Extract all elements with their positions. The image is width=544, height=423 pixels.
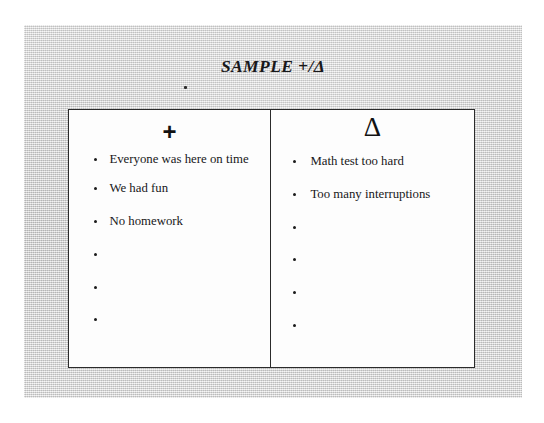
list-item xyxy=(271,220,496,229)
delta-column: Δ Math test too hard Too many interrupti… xyxy=(271,110,474,367)
list-item xyxy=(271,318,496,327)
bullet-icon xyxy=(94,286,97,289)
bullet-icon xyxy=(293,258,296,261)
plus-column: + Everyone was here on time We had fun N… xyxy=(69,110,271,367)
list-item-label: Math test too hard xyxy=(310,154,470,169)
delta-sign-icon: Δ xyxy=(271,114,474,141)
list-item: Everyone was here on time xyxy=(69,152,295,167)
list-item: No homework xyxy=(69,214,295,229)
plus-column-list: Everyone was here on time We had fun No … xyxy=(69,152,270,364)
bullet-icon xyxy=(94,220,97,223)
list-item-label: Everyone was here on time xyxy=(109,152,257,167)
bullet-icon xyxy=(94,318,97,321)
scanned-document: SAMPLE +/Δ + Everyone was here on time W… xyxy=(0,0,544,423)
list-item: Too many interruptions xyxy=(271,187,496,202)
delta-column-list: Math test too hard Too many interruption… xyxy=(271,152,474,364)
list-item xyxy=(271,285,496,294)
scan-speck-artifact xyxy=(184,86,187,89)
bullet-icon xyxy=(94,253,97,256)
list-item xyxy=(69,247,295,256)
list-item xyxy=(69,312,295,321)
page-title: SAMPLE +/Δ xyxy=(24,56,522,77)
bullet-icon xyxy=(293,226,296,229)
bullet-icon xyxy=(94,158,97,161)
list-item-label: We had fun xyxy=(109,181,257,196)
list-item: We had fun xyxy=(69,181,295,196)
list-item-label: Too many interruptions xyxy=(310,187,470,202)
plus-delta-table: + Everyone was here on time We had fun N… xyxy=(68,109,475,368)
bullet-icon xyxy=(293,291,296,294)
bullet-icon xyxy=(94,187,97,190)
bullet-icon xyxy=(293,193,296,196)
list-item xyxy=(69,280,295,289)
bullet-icon xyxy=(293,324,296,327)
plus-sign-icon: + xyxy=(69,120,270,144)
list-item-label: No homework xyxy=(109,214,257,229)
list-item: Math test too hard xyxy=(271,154,496,169)
bullet-icon xyxy=(293,160,296,163)
list-item xyxy=(271,252,496,261)
